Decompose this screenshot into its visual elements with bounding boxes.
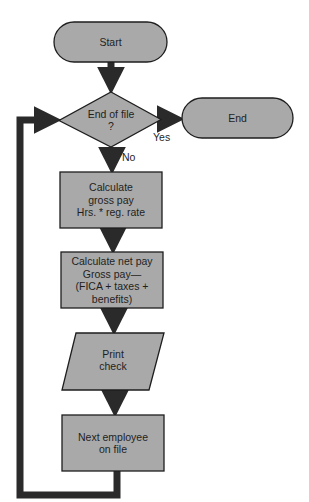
end-text: End — [228, 112, 247, 125]
decision-text-line1: End of file — [88, 108, 135, 121]
net-text-line4: benefits) — [92, 293, 132, 306]
print-text-line2: check — [99, 360, 126, 373]
start-text: Start — [99, 36, 121, 49]
gross-text-line1: Calculate — [89, 181, 133, 194]
net-pay-label: Calculate net pay Gross pay— (FICA + tax… — [61, 252, 163, 308]
net-text-line3: (FICA + taxes + — [76, 280, 149, 293]
net-text-line1: Calculate net pay — [71, 255, 152, 268]
next-text-line1: Next employee — [78, 431, 148, 444]
print-text-line1: Print — [102, 348, 124, 361]
print-check-label: Print check — [70, 340, 156, 380]
end-label: End — [182, 98, 293, 138]
start-label: Start — [54, 22, 167, 62]
gross-pay-label: Calculate gross pay Hrs. * reg. rate — [60, 172, 162, 228]
next-text-line2: on file — [99, 443, 127, 456]
no-label: No — [122, 151, 135, 163]
yes-label: Yes — [153, 131, 170, 143]
next-employee-label: Next employee on file — [62, 415, 164, 471]
decision-text-line2: ? — [108, 120, 114, 133]
gross-text-line2: gross pay — [88, 194, 134, 207]
net-text-line2: Gross pay— — [83, 268, 141, 281]
gross-text-line3: Hrs. * reg. rate — [77, 206, 145, 219]
decision-label: End of file ? — [70, 104, 152, 136]
